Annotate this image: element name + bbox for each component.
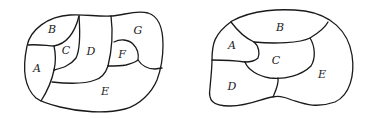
right-region-d-label: D — [228, 81, 237, 92]
right-region-a-label: A — [228, 40, 236, 51]
right-region-c-label: C — [272, 55, 280, 66]
map-coloring-diagram: A B C D E F G A B C D E — [0, 0, 375, 119]
left-region-e-label: E — [101, 86, 109, 97]
left-region-a-label: A — [33, 63, 41, 74]
left-region-g-label: G — [134, 25, 143, 36]
left-region-c-label: C — [62, 45, 70, 56]
left-region-f-label: F — [118, 49, 126, 60]
right-region-b-label: B — [276, 22, 284, 33]
right-region-e-label: E — [318, 69, 326, 80]
diagram-lines — [0, 0, 375, 119]
left-region-b-label: B — [48, 24, 56, 35]
left-region-d-label: D — [87, 46, 96, 57]
